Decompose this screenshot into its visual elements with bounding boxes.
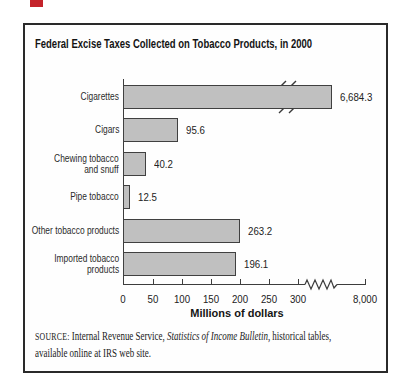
category-label-imported-tobacco-products: Imported tobaccoproducts	[25, 252, 119, 276]
category-label-cigarettes: Cigarettes	[25, 85, 119, 109]
bar-imported-tobacco-products	[123, 252, 236, 276]
x-tick	[240, 279, 241, 284]
source-note: SOURCE: Internal Revenue Service, Statis…	[35, 328, 310, 361]
plot-area: Millions of dollars Cigarettes6,684.3Cig…	[25, 25, 386, 371]
x-tick	[123, 279, 124, 284]
category-label-pipe-tobacco: Pipe tobacco	[25, 185, 119, 209]
category-label-text: Chewing tobaccoand snuff	[55, 153, 119, 176]
value-label-cigars: 95.6	[186, 124, 205, 136]
value-label-chewing-tobacco-and-snuff: 40.2	[154, 158, 173, 170]
category-label-text: Cigars	[95, 124, 119, 136]
x-tick	[182, 279, 183, 284]
bar-pipe-tobacco	[123, 185, 130, 209]
source-text-2: , historical tables,	[268, 330, 331, 342]
axis-break-zigzag-icon	[305, 278, 337, 291]
bar-chewing-tobacco-and-snuff	[123, 152, 146, 176]
x-axis-line-right	[337, 284, 366, 285]
category-label-text: Cigarettes	[81, 91, 119, 103]
category-label-other-tobacco-products: Other tobacco products	[25, 219, 119, 243]
bar-other-tobacco-products	[123, 219, 240, 243]
x-tick-label: 8,000	[347, 293, 382, 305]
chart-frame: Federal Excise Taxes Collected on Tobacc…	[23, 23, 388, 373]
x-tick	[298, 279, 299, 284]
x-tick	[153, 279, 154, 284]
value-label-imported-tobacco-products: 196.1	[244, 258, 268, 270]
x-axis-title: Millions of dollars	[137, 307, 337, 319]
category-label-text: Pipe tobacco	[70, 191, 119, 203]
source-text-line2: available online at IRS web site.	[35, 347, 151, 359]
source-italic-title: Statistics of Income Bulletin	[167, 330, 268, 342]
x-axis-line-left	[123, 284, 305, 285]
bar-cigarettes	[123, 85, 332, 109]
value-label-cigarettes: 6,684.3	[340, 91, 372, 103]
page: { "page": { "artifact_color": "#c4232a" …	[0, 0, 404, 381]
category-label-text: Other tobacco products	[32, 225, 119, 237]
category-label-cigars: Cigars	[25, 118, 119, 142]
x-tick	[269, 279, 270, 284]
bar-cigars	[123, 118, 178, 142]
category-label-text: Imported tobaccoproducts	[54, 253, 119, 276]
x-tick	[211, 279, 212, 284]
source-label: SOURCE:	[35, 331, 70, 342]
category-label-chewing-tobacco-and-snuff: Chewing tobaccoand snuff	[25, 152, 119, 176]
value-label-pipe-tobacco: 12.5	[138, 191, 157, 203]
source-text-1: Internal Revenue Service,	[72, 330, 167, 342]
value-label-other-tobacco-products: 263.2	[248, 225, 272, 237]
x-tick	[365, 279, 366, 284]
x-tick-label: 300	[280, 293, 315, 305]
red-scan-artifact	[30, 0, 43, 7]
